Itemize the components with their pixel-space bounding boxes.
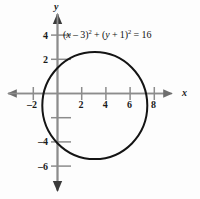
equation-equals-16: = 16 <box>131 29 151 40</box>
x-tick-label--2: –2 <box>27 100 37 110</box>
x-tick-label-4: 4 <box>103 100 108 110</box>
y-tick-label--4: –4 <box>38 137 48 147</box>
equation-plus-1: + 1 <box>110 29 125 40</box>
x-tick-label-6: 6 <box>127 100 132 110</box>
equation-minus-3: – 3 <box>71 29 86 40</box>
circle-graph-figure: –2 2 4 6 8 4 2 –4 –6 x y (x – 3)2 + (y +… <box>0 0 200 199</box>
x-tick-label-2: 2 <box>79 100 84 110</box>
equation-plus: + <box>92 29 102 40</box>
y-tick-label--6: –6 <box>38 162 48 172</box>
x-axis-label: x <box>182 88 187 98</box>
y-axis-label: y <box>54 2 58 12</box>
y-tick-label-4: 4 <box>43 31 48 41</box>
y-tick-label-2: 2 <box>43 55 48 65</box>
x-tick-label-8: 8 <box>151 100 156 110</box>
equation-annotation: (x – 3)2 + (y + 1)2 = 16 <box>63 29 151 40</box>
